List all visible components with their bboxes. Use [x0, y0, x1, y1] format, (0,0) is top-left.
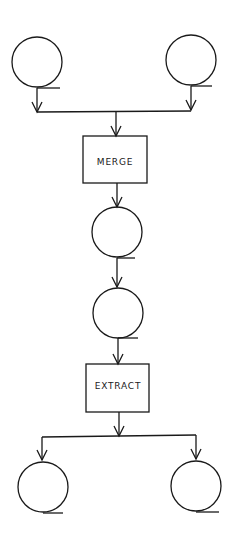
extract-input-connector: [113, 338, 123, 364]
input-2-node: [166, 35, 216, 86]
output-1-node: [18, 462, 68, 513]
file-circle-icon: [92, 207, 142, 257]
file-circle-icon: [166, 35, 216, 85]
intermediate-2-node: [93, 288, 143, 338]
output-2-node: [171, 461, 221, 512]
flowchart-diagram: MERGE EXTRACT: [0, 0, 234, 541]
input-1-node: [12, 37, 62, 88]
file-circle-icon: [18, 462, 68, 512]
merge-node: MERGE: [83, 136, 147, 183]
merge-label: MERGE: [97, 157, 133, 167]
intermediate-connector: [112, 258, 122, 287]
extract-output-connectors: [37, 412, 201, 460]
merge-input-connectors: [32, 86, 196, 136]
extract-node: EXTRACT: [86, 364, 149, 412]
file-circle-icon: [93, 288, 143, 338]
intermediate-1-node: [92, 207, 142, 258]
file-circle-icon: [171, 461, 221, 511]
extract-label: EXTRACT: [95, 381, 141, 391]
merge-output-connector: [112, 183, 122, 207]
file-circle-icon: [12, 37, 62, 87]
